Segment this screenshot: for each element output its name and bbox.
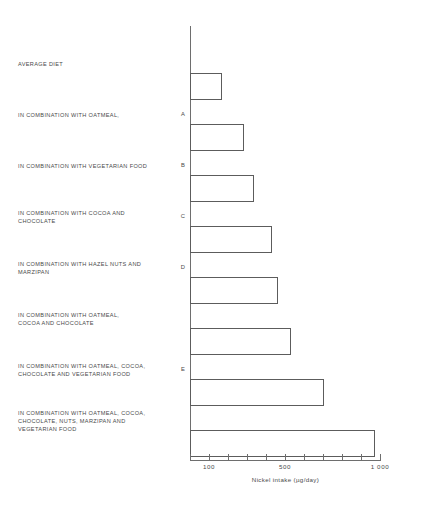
bar xyxy=(190,430,375,457)
category-key: E xyxy=(178,366,188,372)
bar xyxy=(190,175,254,202)
category-label: IN COMBINATION WITH VEGETARIAN FOOD xyxy=(18,162,178,170)
bar xyxy=(190,124,244,151)
category-label: IN COMBINATION WITH OATMEAL, COCOA AND C… xyxy=(18,311,178,327)
x-axis-title: Nickel intake (µg/day) xyxy=(190,476,381,483)
x-tick xyxy=(285,454,286,460)
category-label: AVERAGE DIET xyxy=(18,60,178,68)
bar xyxy=(190,379,324,406)
x-tick-label: 500 xyxy=(265,463,305,470)
x-tick xyxy=(266,454,267,460)
x-axis-line xyxy=(190,460,381,461)
category-label: IN COMBINATION WITH HAZEL NUTS AND MARZI… xyxy=(18,260,178,276)
x-tick xyxy=(342,454,343,460)
x-tick xyxy=(228,454,229,460)
plot-area xyxy=(190,26,386,461)
category-label: IN COMBINATION WITH OATMEAL, xyxy=(18,111,178,119)
x-tick xyxy=(380,454,381,460)
nickel-intake-bar-chart: AVERAGE DIET IN COMBINATION WITH OATMEAL… xyxy=(0,0,427,507)
x-tick xyxy=(323,454,324,460)
category-key: C xyxy=(178,213,188,219)
category-label: IN COMBINATION WITH OATMEAL, COCOA, CHOC… xyxy=(18,362,178,378)
bar xyxy=(190,73,222,100)
x-tick xyxy=(304,454,305,460)
category-label: IN COMBINATION WITH OATMEAL, COCOA, CHOC… xyxy=(18,409,178,434)
x-tick-label: 1 000 xyxy=(360,463,400,470)
bar xyxy=(190,277,278,304)
bar xyxy=(190,226,272,253)
x-tick xyxy=(209,454,210,460)
x-tick-label: 100 xyxy=(189,463,229,470)
x-tick xyxy=(361,454,362,460)
bar xyxy=(190,328,291,355)
x-tick xyxy=(247,454,248,460)
category-label: IN COMBINATION WITH COCOA AND CHOCOLATE xyxy=(18,209,178,225)
x-tick xyxy=(190,454,191,460)
category-key: D xyxy=(178,264,188,270)
category-key: A xyxy=(178,111,188,117)
category-key: B xyxy=(178,162,188,168)
